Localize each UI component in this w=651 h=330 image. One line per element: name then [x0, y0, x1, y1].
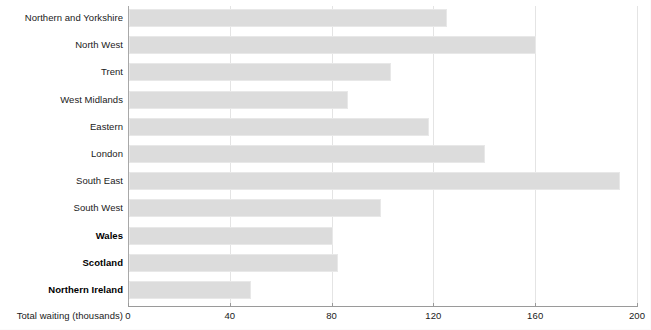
category-label: Northern Ireland — [0, 281, 123, 299]
tick-label-40: 40 — [224, 310, 235, 321]
tick-label-80: 80 — [326, 310, 337, 321]
category-label: Scotland — [0, 254, 123, 272]
category-label: South East — [0, 172, 123, 190]
category-labels: Northern and YorkshireNorth WestTrentWes… — [0, 6, 123, 306]
category-label: London — [0, 145, 123, 163]
tick-label-120: 120 — [425, 310, 441, 321]
tick-mark-120 — [433, 303, 434, 307]
category-label: Eastern — [0, 118, 123, 136]
tick-mark-200 — [637, 303, 638, 307]
tick-label-200: 200 — [629, 310, 645, 321]
plot-area — [128, 6, 637, 306]
x-axis-title: Total waiting (thousands) — [0, 310, 123, 321]
bar[interactable] — [129, 63, 391, 81]
bar[interactable] — [129, 91, 348, 109]
bar[interactable] — [129, 36, 536, 54]
bar[interactable] — [129, 199, 381, 217]
bar[interactable] — [129, 145, 485, 163]
gridline-200 — [637, 6, 638, 306]
tick-mark-40 — [230, 303, 231, 307]
category-label: South West — [0, 199, 123, 217]
category-label: Northern and Yorkshire — [0, 9, 123, 27]
bar[interactable] — [129, 281, 251, 299]
bar[interactable] — [129, 9, 447, 27]
tick-mark-0 — [128, 303, 129, 307]
bar[interactable] — [129, 254, 338, 272]
category-label: Trent — [0, 63, 123, 81]
bar[interactable] — [129, 118, 429, 136]
x-axis-line — [128, 306, 637, 307]
bar-chart: Northern and YorkshireNorth WestTrentWes… — [0, 0, 651, 330]
category-label: Wales — [0, 227, 123, 245]
bar[interactable] — [129, 227, 333, 245]
tick-label-0: 0 — [125, 310, 130, 321]
bar[interactable] — [129, 172, 620, 190]
category-label: West Midlands — [0, 91, 123, 109]
category-label: North West — [0, 36, 123, 54]
tick-mark-80 — [332, 303, 333, 307]
tick-label-160: 160 — [527, 310, 543, 321]
tick-mark-160 — [535, 303, 536, 307]
